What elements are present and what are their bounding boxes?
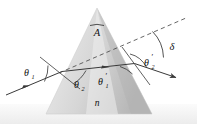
theta1-prime-symbol: θ	[98, 76, 103, 87]
refractive-index-label: n	[95, 98, 100, 108]
theta2-subscript: 2	[82, 85, 85, 92]
figure-canvas: A n θ 1 θ 2 θ 1 ′ θ 2 ′ δ	[0, 0, 197, 124]
theta2-symbol: θ	[74, 79, 79, 90]
theta2-prime-symbol: θ	[144, 57, 149, 68]
theta1-subscript: 1	[32, 73, 35, 80]
theta2-prime-subscript: 2	[152, 63, 155, 70]
apex-angle-label: A	[93, 27, 101, 38]
theta1-symbol: θ	[24, 67, 29, 78]
theta1-prime-subscript: 1	[106, 82, 109, 89]
prism-refraction-figure: A n θ 1 θ 2 θ 1 ′ θ 2 ′ δ	[0, 0, 197, 124]
theta1-prime-mark: ′	[106, 72, 108, 81]
theta2-prime-mark: ′	[152, 53, 154, 62]
